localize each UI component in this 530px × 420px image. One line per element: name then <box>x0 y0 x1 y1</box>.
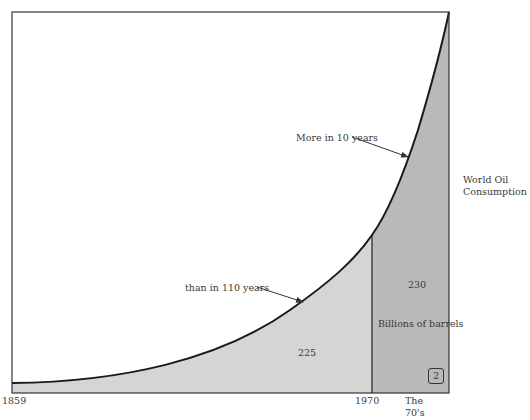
value-left: 225 <box>298 347 316 359</box>
value-right: 230 <box>408 279 426 291</box>
x-tick-1859: 1859 <box>2 395 26 407</box>
series-name-line2: Consumption <box>463 186 527 198</box>
x-tick-70s-line1: The <box>405 395 423 407</box>
area-the-70s <box>372 12 449 393</box>
figure-number-badge: 2 <box>428 368 444 384</box>
chart-canvas <box>0 0 530 420</box>
unit-label: Billions of barrels <box>378 318 464 330</box>
x-tick-1970: 1970 <box>355 395 379 407</box>
series-name-line1: World Oil <box>463 174 508 186</box>
x-tick-70s-line2: 70's <box>405 407 425 419</box>
annotation-than: than in 110 years <box>185 282 269 294</box>
annotation-more: More in 10 years <box>296 132 378 144</box>
area-1859-1970 <box>12 235 372 393</box>
